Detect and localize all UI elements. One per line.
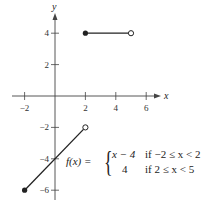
formula-lhs: f(x) = [66, 156, 91, 167]
y-axis-label: y [51, 1, 57, 12]
x-tick-label: 4 [114, 103, 119, 113]
x-axis-label: x [163, 90, 169, 101]
y-tick-label: −4 [39, 154, 49, 164]
x-axis-arrow-icon [154, 94, 161, 99]
x-tick-label: −2 [20, 103, 30, 113]
x-tick-label: 2 [83, 103, 88, 113]
x-tick-label: 6 [144, 103, 149, 113]
case1-condition: if −2 ≤ x < 2 [145, 149, 200, 160]
open-endpoint-icon [83, 125, 88, 130]
case2-expression: 4 [122, 164, 128, 175]
y-tick-label: 4 [45, 28, 50, 38]
y-tick-label: 2 [45, 60, 50, 70]
closed-endpoint-icon [83, 31, 88, 36]
piecewise-formula: f(x) = { x − 4 if −2 ≤ x < 2 4 if 2 ≤ x … [66, 147, 216, 179]
open-endpoint-icon [128, 31, 133, 36]
y-axis-arrow-icon [53, 13, 58, 20]
closed-endpoint-icon [22, 188, 27, 193]
y-tick-label: −6 [39, 185, 49, 195]
case1-expression: x − 4 [112, 149, 135, 160]
case2-condition: if 2 ≤ x < 5 [145, 164, 194, 175]
y-tick-label: −2 [39, 122, 49, 132]
